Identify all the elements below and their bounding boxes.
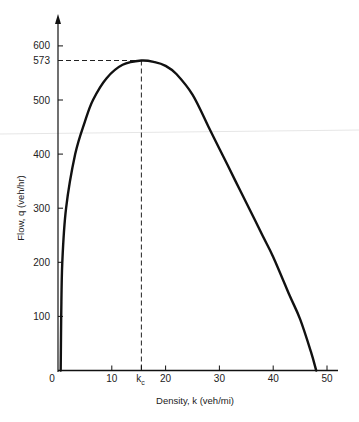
dashed-guides bbox=[58, 61, 141, 371]
y-axis-title: Flow, q (veh/hr) bbox=[15, 175, 26, 240]
origin-label: 0 bbox=[49, 373, 55, 384]
svg-text:kc: kc bbox=[136, 373, 145, 386]
y-axis-arrow-icon bbox=[55, 14, 61, 24]
x-tick-label: 20 bbox=[160, 373, 172, 384]
axes bbox=[55, 14, 338, 372]
x-tick-label: 40 bbox=[268, 373, 280, 384]
y-tick-label: 573 bbox=[33, 55, 50, 66]
y-tick-label: 500 bbox=[33, 95, 50, 106]
x-tick-label: 10 bbox=[106, 373, 118, 384]
scan-artifact-line bbox=[0, 130, 359, 134]
x-tick-label: 50 bbox=[321, 373, 333, 384]
y-tick-label: 100 bbox=[33, 311, 50, 322]
kc-label: kc bbox=[136, 373, 145, 386]
y-tick-label: 200 bbox=[33, 257, 50, 268]
flow-density-curve bbox=[61, 60, 317, 370]
flow-density-chart: 1020304050 100200300400500573600 0 kc De… bbox=[0, 0, 359, 422]
y-tick-label: 600 bbox=[33, 40, 50, 51]
x-axis-title: Density, k (veh/mi) bbox=[156, 395, 234, 406]
y-tick-label: 300 bbox=[33, 203, 50, 214]
y-tick-label: 400 bbox=[33, 149, 50, 160]
kc-subscript: c bbox=[141, 379, 145, 386]
x-tick-label: 30 bbox=[214, 373, 226, 384]
